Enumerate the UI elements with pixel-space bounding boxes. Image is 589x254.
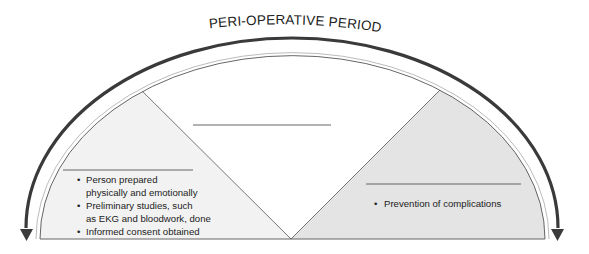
- left-bullet-1-line-1: Person prepared: [86, 174, 157, 185]
- right-arrowhead-icon: [551, 229, 564, 241]
- bullet-glyph: •: [374, 198, 377, 209]
- right-phase-bullets: • Prevention of complications: [374, 198, 502, 209]
- left-bullet-2-line-1: Preliminary studies, such: [86, 200, 193, 211]
- bullet-glyph: •: [77, 200, 80, 211]
- left-arrowhead-icon: [20, 229, 33, 241]
- peri-operative-diagram: PERI-OPERATIVE PERIOD • Person prepared …: [0, 0, 589, 254]
- right-bullet-1-line-1: Prevention of complications: [384, 198, 502, 209]
- left-bullet-2-line-2: as EKG and bloodwork, done: [86, 213, 211, 224]
- diagram-title: PERI-OPERATIVE PERIOD: [208, 12, 383, 35]
- left-bullet-3-line-1: Informed consent obtained: [86, 226, 200, 237]
- left-bullet-1-line-2: physically and emotionally: [86, 187, 198, 198]
- bullet-glyph: •: [77, 174, 80, 185]
- bullet-glyph: •: [77, 226, 80, 237]
